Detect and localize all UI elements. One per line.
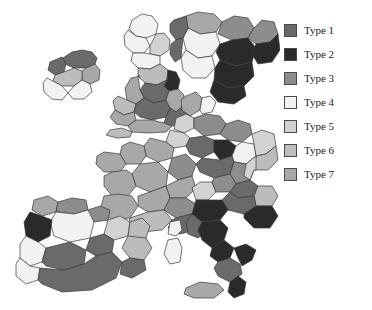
- legend-item[interactable]: Type 1: [284, 18, 370, 42]
- map-region-france-burgundy[interactable]: [166, 176, 196, 198]
- map-regions-group: [16, 12, 280, 298]
- map-region-hungary[interactable]: [254, 186, 278, 206]
- map-region-switzerland[interactable]: [192, 182, 216, 200]
- legend-swatch-type-6: [284, 144, 297, 157]
- legend-swatch-type-4: [284, 96, 297, 109]
- map-svg: [0, 0, 280, 310]
- map-region-spain-castilla-leon[interactable]: [50, 210, 94, 242]
- map-region-italy-sicily[interactable]: [184, 282, 224, 298]
- legend-swatch-type-2: [284, 48, 297, 61]
- legend-swatch-type-1: [284, 24, 297, 37]
- map-region-denmark-islands[interactable]: [200, 96, 216, 114]
- legend-label-type-4: Type 4: [304, 97, 334, 108]
- legend-label-type-6: Type 6: [304, 145, 334, 156]
- legend-label-type-5: Type 5: [304, 121, 334, 132]
- legend-item[interactable]: Type 6: [284, 138, 370, 162]
- legend-swatch-type-7: [284, 168, 297, 181]
- legend-item[interactable]: Type 4: [284, 90, 370, 114]
- map-region-germany-west[interactable]: [186, 136, 214, 158]
- legend-label-type-3: Type 3: [304, 73, 334, 84]
- map-region-spain-murcia[interactable]: [120, 258, 146, 278]
- map-legend: Type 1 Type 2 Type 3 Type 4 Type 5 Type …: [284, 18, 370, 186]
- map-region-spain-valencia[interactable]: [122, 236, 152, 260]
- legend-swatch-type-3: [284, 72, 297, 85]
- choropleth-map: [0, 0, 280, 310]
- map-region-france-west[interactable]: [104, 170, 136, 196]
- legend-item[interactable]: Type 2: [284, 42, 370, 66]
- europe-typology-figure: Type 1 Type 2 Type 3 Type 4 Type 5 Type …: [0, 0, 372, 310]
- map-region-italy-sardinia[interactable]: [164, 238, 182, 264]
- legend-item[interactable]: Type 5: [284, 114, 370, 138]
- legend-item[interactable]: Type 3: [284, 66, 370, 90]
- legend-label-type-1: Type 1: [304, 25, 334, 36]
- legend-swatch-type-5: [284, 120, 297, 133]
- legend-item[interactable]: Type 7: [284, 162, 370, 186]
- map-region-england-cornwall[interactable]: [106, 128, 132, 138]
- map-region-scotland-east[interactable]: [150, 33, 170, 56]
- map-region-spain-galicia[interactable]: [32, 196, 58, 216]
- legend-label-type-2: Type 2: [304, 49, 334, 60]
- legend-label-type-7: Type 7: [304, 169, 334, 180]
